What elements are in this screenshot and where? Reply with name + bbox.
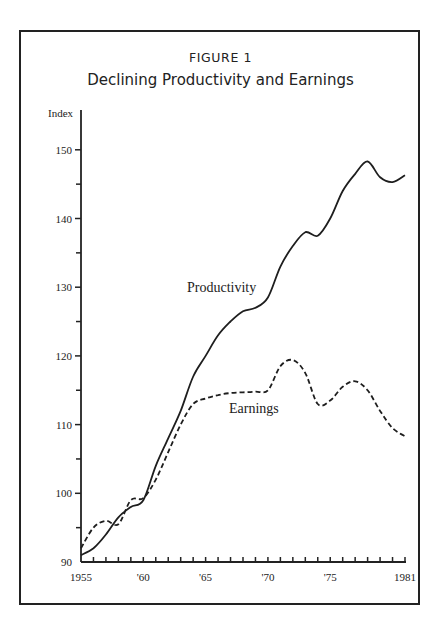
- productivity-line: [81, 161, 405, 555]
- earnings-line: [81, 360, 405, 549]
- y-axis-label: Index: [48, 107, 74, 119]
- x-tick-label: '65: [199, 571, 212, 583]
- productivity-label: Productivity: [187, 280, 256, 295]
- x-tick-label: '60: [137, 571, 150, 583]
- x-tick-label: '75: [324, 571, 337, 583]
- x-axis-ticks: 1955'60'65'70'751981: [70, 557, 416, 583]
- chart-plot: Index 90100110120130140150 1955'60'65'70…: [0, 0, 441, 623]
- y-tick-label: 100: [56, 487, 73, 499]
- x-tick-label: 1981: [394, 571, 416, 583]
- y-axis-ticks: 90100110120130140150: [56, 144, 82, 568]
- y-tick-label: 130: [56, 281, 73, 293]
- y-tick-label: 90: [61, 556, 73, 568]
- axes: [81, 110, 406, 562]
- y-tick-label: 120: [56, 350, 73, 362]
- y-tick-label: 150: [56, 144, 73, 156]
- x-tick-label: 1955: [70, 571, 93, 583]
- y-tick-label: 140: [56, 213, 73, 225]
- y-tick-label: 110: [56, 419, 73, 431]
- x-tick-label: '70: [261, 571, 274, 583]
- earnings-label: Earnings: [229, 401, 279, 416]
